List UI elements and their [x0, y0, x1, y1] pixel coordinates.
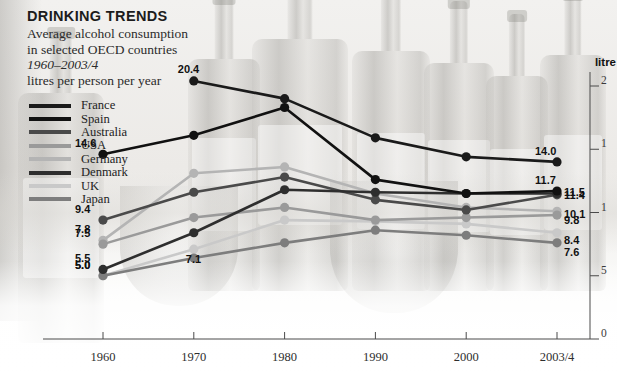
data-point[interactable] — [280, 94, 289, 103]
data-point[interactable] — [280, 215, 289, 224]
legend-item-uk[interactable]: UK — [29, 179, 128, 192]
data-point[interactable] — [189, 213, 198, 222]
legend-swatch-icon — [29, 184, 71, 188]
data-point[interactable] — [280, 103, 289, 112]
data-point[interactable] — [552, 238, 561, 247]
subtitle-line-1: Average alcohol consumption — [27, 26, 257, 42]
data-point[interactable] — [552, 186, 561, 195]
y-axis-unit-label: litre — [595, 56, 616, 68]
data-point[interactable] — [280, 162, 289, 171]
title-block: DRINKING TRENDS Average alcohol consumpt… — [27, 8, 257, 88]
series-line — [103, 220, 557, 276]
series-line — [194, 81, 557, 162]
series-line — [103, 167, 557, 240]
legend-swatch-icon — [29, 171, 71, 175]
data-point[interactable] — [462, 152, 471, 161]
data-point[interactable] — [98, 215, 107, 224]
legend-swatch-icon — [29, 157, 71, 161]
period-range: 1960–2003/4 — [27, 57, 257, 73]
data-point[interactable] — [462, 205, 471, 214]
data-point[interactable] — [189, 188, 198, 197]
legend-swatch-icon — [29, 197, 71, 201]
legend-swatch-icon — [29, 144, 71, 148]
data-point[interactable] — [371, 215, 380, 224]
data-point[interactable] — [552, 210, 561, 219]
data-point[interactable] — [280, 203, 289, 212]
end-value-label-japan: 7.6 — [564, 246, 579, 258]
x-axis-label: 1960 — [81, 350, 125, 365]
data-point[interactable] — [189, 169, 198, 178]
start-value-label-japan: 5.0 — [75, 259, 90, 271]
peak-value-label-france: 20.4 — [178, 63, 199, 75]
end-value-label-spain: 11.7 — [535, 174, 556, 186]
start-value-label-usa: 7.5 — [75, 227, 90, 239]
data-point[interactable] — [552, 228, 561, 237]
legend-swatch-icon — [29, 117, 71, 121]
data-point[interactable] — [462, 189, 471, 198]
units-description: litres per person per year — [27, 73, 257, 89]
data-point[interactable] — [462, 231, 471, 240]
end-value-label-uk: 8.4 — [564, 234, 579, 246]
start-value-label-australia: 9.4 — [75, 203, 90, 215]
series-france[interactable] — [189, 76, 561, 166]
x-axis-label: 2000 — [444, 350, 488, 365]
data-point[interactable] — [371, 188, 380, 197]
series-japan[interactable] — [98, 226, 561, 281]
data-point[interactable] — [189, 131, 198, 140]
drinking-trends-chart: DRINKING TRENDS Average alcohol consumpt… — [0, 0, 617, 373]
data-point[interactable] — [189, 228, 198, 237]
y-axis-label: 0 — [601, 327, 607, 339]
x-axis-label: 1980 — [263, 350, 307, 365]
y-axis-label: 2 — [601, 74, 607, 86]
data-point[interactable] — [552, 157, 561, 166]
series-line — [103, 230, 557, 276]
legend-item-denmark[interactable]: Denmark — [29, 166, 128, 179]
page-title: DRINKING TRENDS — [27, 8, 257, 24]
series-line — [103, 190, 557, 270]
y-axis-label: 1 — [601, 201, 607, 213]
series-denmark[interactable] — [98, 185, 561, 274]
x-axis-label: 1970 — [172, 350, 216, 365]
legend-swatch-icon — [29, 130, 71, 134]
legend-item-germany[interactable]: Germany — [29, 153, 128, 166]
y-axis-label: 1 — [601, 137, 607, 149]
data-point[interactable] — [98, 240, 107, 249]
legend-swatch-icon — [29, 104, 71, 108]
x-axis-label: 1990 — [353, 350, 397, 365]
legend: FranceSpainAustraliaUSAGermanyDenmarkUKJ… — [29, 99, 128, 206]
data-point[interactable] — [280, 185, 289, 194]
data-point[interactable] — [280, 172, 289, 181]
series-germany[interactable] — [98, 162, 561, 245]
x-axis-label: 2003/4 — [535, 350, 579, 365]
subtitle-line-2: in selected OECD countries — [27, 42, 257, 58]
data-point[interactable] — [280, 238, 289, 247]
data-point[interactable] — [98, 265, 107, 274]
legend-item-france[interactable]: France — [29, 99, 128, 112]
end-value-label-usa: 9.8 — [564, 214, 579, 226]
data-point[interactable] — [371, 175, 380, 184]
peak-value-label-uk: 7.1 — [186, 253, 201, 265]
start-value-label-spain: 14.6 — [75, 137, 96, 149]
end-value-label-france: 14.0 — [535, 145, 556, 157]
legend-item-spain[interactable]: Spain — [29, 112, 128, 125]
data-point[interactable] — [371, 226, 380, 235]
y-axis-label: 5 — [601, 264, 607, 276]
data-point[interactable] — [371, 133, 380, 142]
end-value-label-australia: 11.4 — [564, 189, 585, 201]
